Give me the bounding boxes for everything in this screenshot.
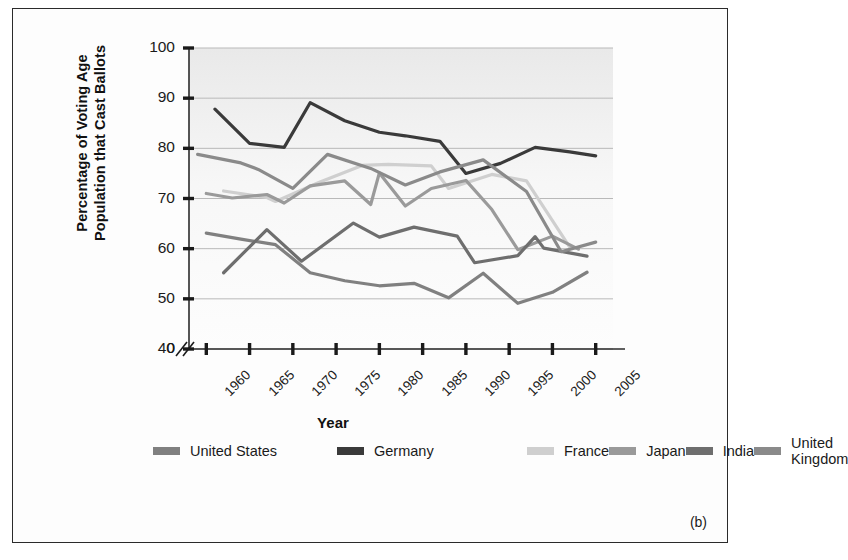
legend-label: Germany (374, 443, 434, 459)
legend-swatch (153, 447, 180, 455)
legend-swatch (754, 447, 781, 455)
panel-label: (b) (690, 514, 707, 530)
x-axis-title: Year (193, 414, 473, 431)
chart-stage: Percentage of Voting Age Population that… (13, 9, 729, 544)
legend-swatch (609, 447, 636, 455)
legend-swatch (527, 447, 554, 455)
legend-label: United States (190, 443, 277, 459)
legend-label: India (723, 443, 754, 459)
legend-label: France (564, 443, 609, 459)
legend-swatch (337, 447, 364, 455)
legend-label: Japan (646, 443, 686, 459)
legend-entry[interactable]: India (686, 443, 754, 459)
figure-frame: Percentage of Voting Age Population that… (12, 8, 728, 543)
legend-entry[interactable]: United States (153, 443, 337, 459)
legend-entry[interactable]: Germany (337, 443, 527, 459)
plot-area (13, 9, 729, 544)
chart-legend: United StatesGermanyFranceJapanIndiaUnit… (153, 441, 593, 460)
legend-entry[interactable]: Japan (609, 443, 686, 459)
legend-entry[interactable]: France (527, 443, 609, 459)
legend-label: United Kingdom (791, 435, 848, 467)
legend-entry[interactable]: United Kingdom (754, 435, 848, 467)
legend-swatch (686, 447, 713, 455)
